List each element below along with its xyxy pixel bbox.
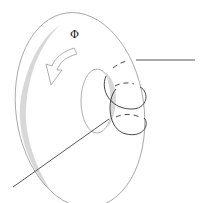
core-rim-shade xyxy=(20,25,60,192)
toroid-diagram: Φ xyxy=(0,0,204,203)
flux-label: Φ xyxy=(70,28,79,41)
flux-arrow-icon xyxy=(46,48,77,85)
